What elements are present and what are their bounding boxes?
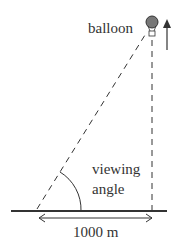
viewing-angle-label-line2: angle: [92, 181, 125, 197]
balloon-viewing-angle-diagram: balloon viewing angle 1000 m: [0, 0, 179, 246]
viewing-angle-arc: [60, 172, 81, 211]
double-headed-arrow-icon: [39, 214, 152, 222]
distance-label: 1000 m: [73, 224, 119, 240]
line-of-sight: [37, 35, 145, 209]
balloon-label: balloon: [88, 20, 133, 36]
up-arrow-icon: [163, 19, 171, 50]
viewing-angle-label-line1: viewing: [92, 161, 141, 177]
hot-air-balloon-icon: [146, 16, 158, 36]
